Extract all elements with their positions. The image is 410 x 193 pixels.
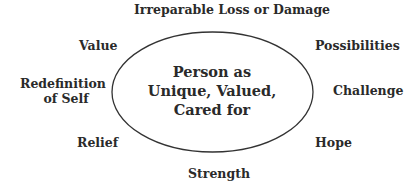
- label-redefinition-of-self: Redefinition of Self: [20, 76, 100, 106]
- center-line-1: Person as: [132, 62, 292, 81]
- center-line-2: Unique, Valued,: [132, 81, 292, 100]
- label-redefinition-line1: Redefinition: [20, 76, 100, 91]
- label-relief: Relief: [77, 135, 118, 150]
- center-line-3: Cared for: [132, 100, 292, 119]
- label-top: Irreparable Loss or Damage: [134, 2, 330, 17]
- label-redefinition-line2: of Self: [20, 91, 100, 106]
- label-value: Value: [79, 38, 117, 53]
- label-possibilities: Possibilities: [315, 38, 400, 53]
- label-challenge: Challenge: [333, 83, 403, 98]
- label-hope: Hope: [315, 135, 352, 150]
- center-text: Person as Unique, Valued, Cared for: [132, 62, 292, 119]
- label-strength: Strength: [188, 166, 250, 181]
